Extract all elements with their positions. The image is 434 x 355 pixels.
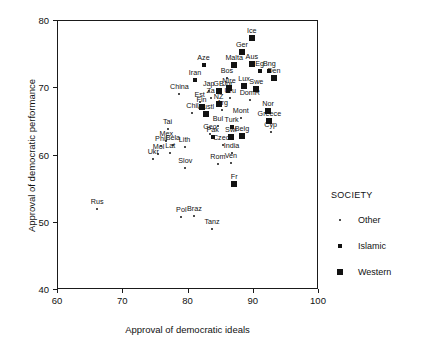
y-tick-mark — [53, 20, 57, 21]
data-point-label: Ukr — [148, 148, 159, 156]
data-point-label: Ger — [236, 41, 248, 49]
data-point — [249, 35, 255, 41]
data-point-label: Nor — [262, 100, 274, 108]
legend-marker-icon — [331, 244, 349, 248]
x-tick-label: 70 — [117, 295, 128, 306]
data-point-label: Pol — [176, 206, 186, 214]
data-point-label: Fr — [231, 173, 238, 181]
data-point — [193, 215, 195, 217]
data-point-label: Lat — [165, 142, 175, 150]
data-point-label: Rus — [91, 198, 104, 206]
data-point-label: DomR — [240, 89, 260, 97]
x-axis-label: Approval of democratic ideals — [57, 324, 318, 335]
data-point — [193, 78, 197, 82]
y-tick-mark — [53, 222, 57, 223]
data-point-label: China — [170, 83, 189, 91]
data-point — [271, 75, 277, 81]
data-point — [249, 61, 255, 67]
data-point — [239, 133, 245, 139]
x-tick-mark — [318, 289, 319, 293]
data-point-label: Ice — [247, 27, 257, 35]
x-tick-mark — [57, 289, 58, 293]
legend-rows: OtherIslamicWestern — [331, 213, 431, 278]
data-point-label: Arg — [217, 99, 228, 107]
data-point-label: Rom — [210, 153, 225, 161]
x-tick-mark — [122, 289, 123, 293]
data-point — [96, 208, 98, 210]
data-point — [210, 97, 212, 99]
data-point — [217, 163, 219, 165]
plot-area: IceGerAusMaltaAzeEgBngDenBosNIreIranJapG… — [57, 20, 318, 289]
x-tick-mark — [188, 289, 189, 293]
data-point — [258, 69, 262, 73]
legend-item-other[interactable]: Other — [331, 213, 431, 226]
data-point — [270, 131, 272, 133]
y-tick-label: 40 — [23, 284, 49, 295]
x-tick-label: 90 — [247, 295, 258, 306]
legend-item-label: Other — [358, 215, 381, 225]
legend-item-label: Islamic — [358, 241, 386, 251]
data-point — [211, 228, 213, 230]
y-tick-mark — [53, 87, 57, 88]
legend-title: SOCIETY — [331, 190, 431, 200]
data-point-label: Aze — [197, 54, 209, 62]
legend: SOCIETY OtherIslamicWestern — [331, 190, 431, 291]
legend-marker-icon — [331, 219, 349, 221]
data-point — [184, 146, 186, 148]
data-point — [240, 117, 242, 119]
legend-marker-icon — [331, 269, 349, 275]
data-point — [231, 181, 237, 187]
y-tick-label: 60 — [23, 149, 49, 160]
x-tick-mark — [253, 289, 254, 293]
data-point-label: Braz — [187, 205, 202, 213]
data-point-label: Belg — [235, 125, 249, 133]
data-point-label: Malta — [225, 54, 243, 62]
data-point-label: Swe — [249, 78, 263, 86]
data-point-label: Slov — [178, 157, 192, 165]
data-point — [229, 97, 231, 99]
data-point-label: Mont — [233, 107, 249, 115]
data-point-label: Uru — [224, 87, 236, 95]
data-point-label: Cyp — [264, 121, 277, 129]
data-point-label: Chil — [186, 102, 198, 110]
scatter-chart-figure: Approval of democratic performance IceGe… — [0, 0, 434, 355]
y-tick-label: 50 — [23, 216, 49, 227]
data-point — [169, 152, 171, 154]
data-point-label: India — [224, 142, 240, 150]
data-point-label: Tanz — [204, 218, 219, 226]
data-point-label: Bos — [221, 67, 233, 75]
data-point — [180, 216, 182, 218]
data-point-label: Den — [267, 67, 280, 75]
legend-item-label: Western — [358, 267, 391, 277]
data-point — [178, 93, 180, 95]
data-point-label: Ven — [225, 152, 237, 160]
data-point-label: Greece — [258, 110, 282, 118]
data-point — [249, 99, 251, 101]
data-point-label: Austl — [198, 103, 214, 111]
y-tick-mark — [53, 289, 57, 290]
data-points-layer: IceGerAusMaltaAzeEgBngDenBosNIreIranJapG… — [58, 21, 317, 288]
legend-item-western[interactable]: Western — [331, 265, 431, 278]
data-point — [202, 63, 206, 67]
y-tick-mark — [53, 155, 57, 156]
data-point — [221, 109, 223, 111]
data-point — [184, 167, 186, 169]
x-tick-label: 100 — [310, 295, 326, 306]
data-point — [152, 158, 154, 160]
data-point-label: Lith — [179, 136, 191, 144]
y-tick-label: 80 — [23, 15, 49, 26]
data-point-label: Tai — [163, 118, 172, 126]
data-point — [191, 112, 193, 114]
y-tick-label: 70 — [23, 82, 49, 93]
data-point — [203, 111, 209, 117]
legend-item-islamic[interactable]: Islamic — [331, 239, 431, 252]
data-point-label: Bul — [213, 115, 223, 123]
data-point-label: Lux — [238, 75, 250, 83]
x-tick-label: 80 — [182, 295, 193, 306]
x-tick-label: 60 — [52, 295, 63, 306]
data-point-label: Iran — [189, 69, 201, 77]
data-point — [230, 162, 232, 164]
